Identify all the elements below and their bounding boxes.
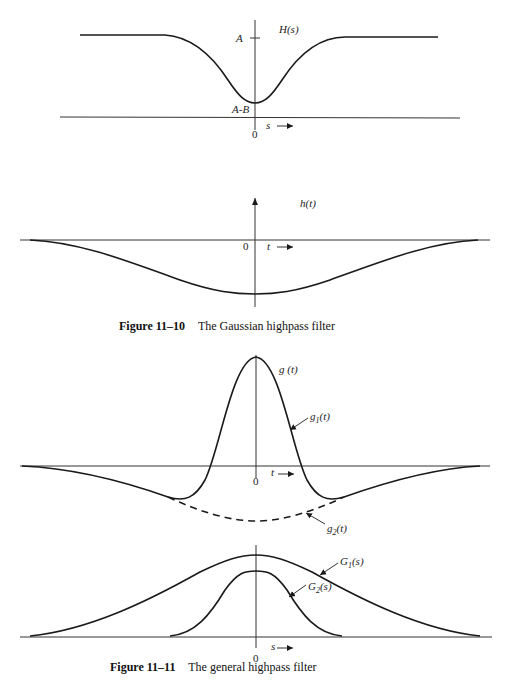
G1-pointer-arrow-icon [320, 563, 338, 575]
g1-of-t-label: g1(t) [310, 410, 330, 425]
s-axis-label: s [271, 640, 275, 652]
G1-of-s-label: G1(s) [340, 555, 364, 570]
s-axis-label: s [266, 119, 270, 131]
figure-canvas: H(s) A A-B 0 s h(t) 0 t Figure 11–10 The… [0, 0, 508, 680]
G1-of-s-curve [30, 555, 480, 636]
level-A-label: A [235, 32, 243, 44]
G2-pointer-arrow-icon [289, 585, 306, 597]
panel-H-of-s: H(s) A A-B 0 s [60, 20, 460, 140]
origin-label: 0 [243, 240, 249, 252]
g2-pointer-arrow-icon [306, 513, 325, 524]
figure-11-10-caption: Figure 11–10 The Gaussian highpass filte… [119, 319, 335, 333]
panel-h-of-t: h(t) 0 t [20, 197, 490, 307]
s-axis [60, 117, 460, 118]
H-of-s-label: H(s) [278, 23, 299, 36]
t-axis-label: t [271, 466, 275, 478]
G2-of-s-label: G2(s) [308, 580, 332, 595]
g2-of-t-curve [168, 497, 344, 521]
panel-G-of-s: G1(s) G2(s) 0 s [20, 545, 492, 664]
g1-pointer-arrow-icon [290, 418, 308, 430]
h-of-t-curve [30, 240, 478, 294]
h-of-t-label: h(t) [300, 197, 316, 210]
g2-of-t-label: g2(t) [327, 522, 347, 537]
H-of-s-curve [80, 35, 438, 103]
level-A-minus-B-label: A-B [231, 103, 249, 115]
g-of-t-label: g (t) [279, 363, 298, 376]
t-axis-label: t [267, 240, 271, 252]
figure-11-11-caption: Figure 11–11 The general highpass filter [110, 660, 317, 674]
origin-label: 0 [252, 128, 258, 140]
g1-of-t-curve [22, 357, 480, 499]
origin-label: 0 [253, 475, 259, 487]
panel-g-of-t: g (t) g1(t) g2(t) 0 t [20, 355, 490, 537]
